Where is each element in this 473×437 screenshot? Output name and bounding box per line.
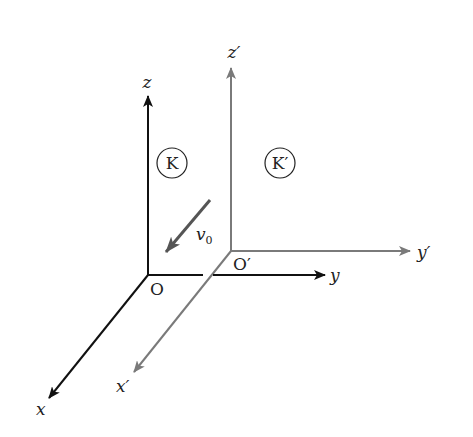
frame-k-prime-label: K′ (272, 153, 289, 173)
velocity-subscript: 0 (206, 234, 213, 247)
z-axis-label: z (142, 72, 153, 92)
frame-k-label: K (166, 153, 179, 173)
y-axis-label: y (329, 265, 340, 285)
reference-frames-diagram: K K′ z z′ y y′ x x′ O O′ v0 (0, 0, 473, 437)
origin-o-label: O (150, 279, 164, 299)
y-prime-axis-label: y′ (416, 242, 431, 262)
frame-k-badge: K (157, 148, 187, 178)
velocity-symbol: v (196, 224, 206, 244)
frame-k (49, 96, 325, 398)
frame-k-prime (134, 68, 410, 372)
x-prime-axis-label: x′ (116, 376, 130, 396)
x-axis (49, 275, 148, 398)
velocity-label: v0 (196, 224, 213, 247)
z-prime-axis-label: z′ (227, 42, 241, 62)
frame-k-prime-badge: K′ (265, 148, 295, 178)
x-axis-label: x (36, 399, 46, 419)
origin-o-prime-label: O′ (233, 254, 251, 274)
